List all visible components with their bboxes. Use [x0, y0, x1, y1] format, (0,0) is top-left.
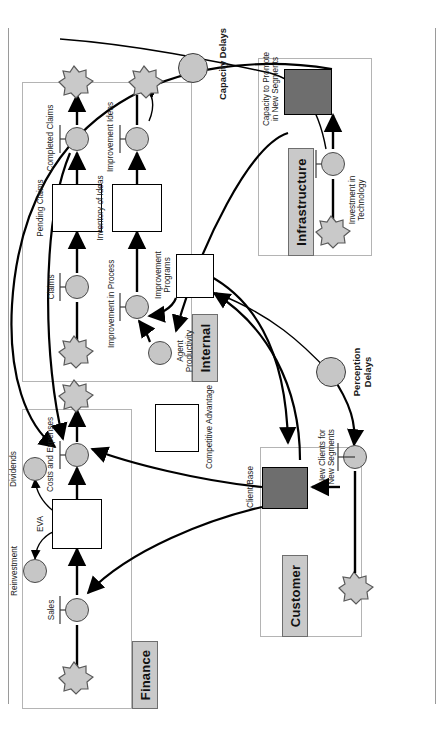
valve-agent-productivity — [148, 341, 172, 365]
stock-improvement-programs — [176, 254, 214, 298]
cloud-finance-source — [58, 661, 94, 695]
cloud-infrastructure-source — [315, 215, 351, 249]
label-improvement-in-process: Improvement in Process — [107, 262, 116, 348]
stock-capacity-to-promote — [284, 69, 332, 115]
delay-circle-capacity — [178, 53, 208, 83]
label-sales: Sales — [47, 586, 56, 634]
label-client-base: Client Base — [246, 455, 255, 519]
label-investment-in-technology: Investment in Technology — [348, 164, 366, 236]
label-eva: EVA — [36, 500, 45, 548]
cloud-customer-source — [338, 571, 374, 605]
label-costs-and-expenses: Costs and Expenses — [46, 418, 55, 492]
label-dividends: Dividends — [9, 441, 18, 497]
label-reinvestment: Reinvestment — [10, 535, 19, 607]
connector-layer — [0, 0, 447, 745]
label-improvement-programs: Improvement Programs — [154, 242, 172, 308]
valve-improvement-in-process — [125, 295, 149, 319]
cloud-internal-claims-sink — [58, 65, 94, 99]
label-new-clients-for-new-segments: New Clients for New Segments — [318, 421, 336, 493]
stock-eva — [52, 499, 102, 549]
valve-improvement-ideas — [125, 127, 149, 151]
label-inventory-of-ideas: Inventory of Ideas — [96, 169, 105, 247]
valve-investment-in-technology — [321, 152, 345, 176]
valve-costs-and-expenses — [65, 443, 89, 467]
cloud-finance-sink — [58, 379, 94, 413]
valve-claims — [65, 275, 89, 299]
valve-new-clients — [343, 445, 367, 469]
valve-reinvestment — [23, 559, 47, 583]
label-perception-delays: Perception Delays — [352, 333, 373, 411]
diagram-canvas-wrapper: Finance Internal Customer Infrastructure — [0, 0, 447, 745]
cloud-internal-claims-source — [58, 335, 94, 369]
valve-sales — [65, 598, 89, 622]
stock-inventory-of-ideas — [112, 184, 162, 232]
label-capacity-delays: Capacity Delays — [218, 23, 229, 105]
delay-circle-perception — [316, 357, 346, 387]
cloud-improvement-ideas-source — [128, 65, 164, 99]
stock-competitive-advantage-main — [155, 404, 199, 452]
stock-pending-claims — [52, 184, 102, 232]
diagram-page: Finance Internal Customer Infrastructure — [0, 0, 447, 745]
label-competitive-advantage: Competitive Advantage — [205, 381, 214, 473]
label-agent-productivity: Agent Productivity — [176, 325, 194, 377]
label-claims: Claims — [47, 263, 56, 311]
valve-completed-claims — [65, 127, 89, 151]
stock-client-base — [262, 467, 308, 509]
label-capacity-to-promote: Capacity to Promote in New Segments — [262, 43, 280, 135]
label-improvement-ideas: Improvement Ideas — [106, 99, 115, 175]
diagram-canvas: Finance Internal Customer Infrastructure — [0, 0, 447, 745]
label-pending-claims-text: Pending Claims — [36, 172, 45, 244]
label-completed-claims: Completed Claims — [46, 103, 55, 173]
valve-dividends — [23, 457, 47, 481]
